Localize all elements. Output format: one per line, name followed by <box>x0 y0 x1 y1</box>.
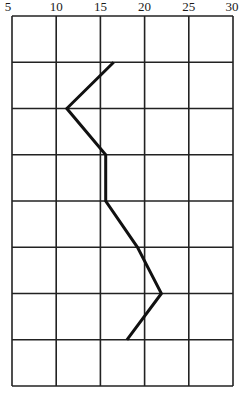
x-tick-label: 15 <box>94 0 107 14</box>
x-tick-label: 5 <box>5 0 12 14</box>
x-axis-tick-labels: 51015202530 <box>5 0 239 14</box>
line-chart: 51015202530 <box>0 0 241 401</box>
x-tick-label: 10 <box>50 0 63 14</box>
x-tick-label: 20 <box>138 0 151 14</box>
chart-grid <box>12 16 233 386</box>
x-tick-label: 25 <box>182 0 195 14</box>
x-tick-label: 30 <box>226 0 239 14</box>
